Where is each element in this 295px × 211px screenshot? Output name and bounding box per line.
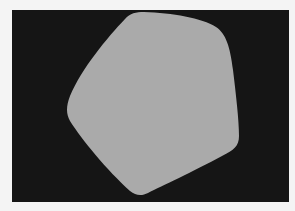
dark-panel bbox=[12, 10, 289, 202]
pentagon-shape bbox=[12, 10, 289, 202]
pentagon-icon bbox=[67, 12, 239, 195]
